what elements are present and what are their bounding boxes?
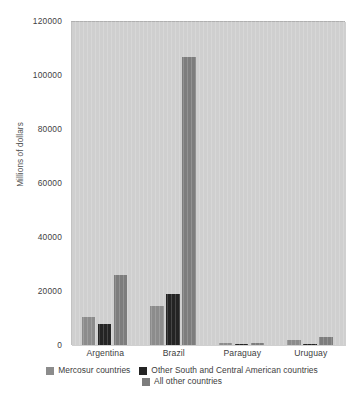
bar-argentina-series-3 xyxy=(114,275,128,345)
plot-area xyxy=(71,21,345,345)
bar-uruguay-series-1 xyxy=(287,340,301,345)
y-tick-label-20000: 20000 xyxy=(0,286,68,296)
legend-swatch-other-south-central-american xyxy=(139,367,147,375)
legend-label-mercosur-countries: Mercosur countries xyxy=(58,366,130,375)
legend-row-primary: Mercosur countries Other South and Centr… xyxy=(0,366,364,375)
y-tick-label-120000: 120000 xyxy=(0,16,68,26)
bar-paraguay-series-3 xyxy=(251,343,265,345)
bar-chart-figure: Millions of dollars 02000040000600008000… xyxy=(0,0,364,398)
bar-uruguay-series-2 xyxy=(303,344,317,345)
bar-brazil-series-1 xyxy=(150,306,164,345)
x-axis-category-labels: ArgentinaBrazilParaguayUruguay xyxy=(71,348,345,362)
legend-swatch-mercosur-countries xyxy=(46,367,54,375)
y-tick-label-100000: 100000 xyxy=(0,70,68,80)
x-label-argentina: Argentina xyxy=(71,348,140,358)
legend-row-secondary: All other countries xyxy=(0,377,364,386)
legend-label-other-south-central-american: Other South and Central American countri… xyxy=(151,366,317,375)
bar-brazil-series-3 xyxy=(182,57,196,345)
bar-paraguay-series-1 xyxy=(219,343,233,345)
y-tick-label-60000: 60000 xyxy=(0,178,68,188)
legend-item-other-south-central-american: Other South and Central American countri… xyxy=(139,366,317,375)
bar-brazil-series-2 xyxy=(166,294,180,345)
x-label-paraguay: Paraguay xyxy=(208,348,277,358)
bars-layer xyxy=(71,21,345,345)
x-label-uruguay: Uruguay xyxy=(277,348,346,358)
x-label-brazil: Brazil xyxy=(140,348,209,358)
legend-swatch-all-other-countries xyxy=(142,378,150,386)
legend-item-mercosur-countries: Mercosur countries xyxy=(46,366,130,375)
y-tick-label-0: 0 xyxy=(0,340,68,350)
bar-argentina-series-1 xyxy=(82,317,96,345)
legend-label-all-other-countries: All other countries xyxy=(154,377,222,386)
y-tick-label-40000: 40000 xyxy=(0,232,68,242)
bar-uruguay-series-3 xyxy=(319,337,333,345)
legend-item-all-other-countries: All other countries xyxy=(142,377,222,386)
chart-legend: Mercosur countries Other South and Centr… xyxy=(0,366,364,388)
y-tick-label-80000: 80000 xyxy=(0,124,68,134)
bar-argentina-series-2 xyxy=(98,324,112,345)
bar-paraguay-series-2 xyxy=(235,344,249,345)
